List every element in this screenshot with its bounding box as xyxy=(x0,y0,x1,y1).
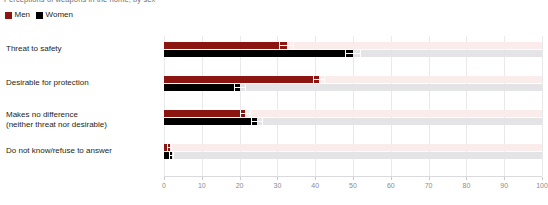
bar-women[interactable] xyxy=(164,118,257,125)
x-axis-tick xyxy=(429,177,430,180)
plot-area xyxy=(164,36,542,176)
legend-label-men: Men xyxy=(15,9,31,21)
error-bar xyxy=(313,76,324,83)
bar-men[interactable] xyxy=(164,42,287,49)
legend-swatch-men-icon xyxy=(5,12,12,19)
category-label: Desirable for protection xyxy=(6,78,152,88)
bar-women[interactable] xyxy=(164,50,353,57)
x-axis-tick-label: 90 xyxy=(500,181,508,190)
chart-title-clipped: Perceptions of weapons in the home, by s… xyxy=(4,0,404,5)
x-axis-ticks: 0102030405060708090100 xyxy=(164,177,542,191)
bar-track xyxy=(164,152,542,159)
error-bar xyxy=(240,110,251,117)
x-axis-tick-label: 60 xyxy=(387,181,395,190)
x-axis-tick xyxy=(277,177,278,180)
x-axis-tick-label: 20 xyxy=(236,181,244,190)
x-axis-tick xyxy=(164,177,165,180)
error-bar xyxy=(251,118,263,125)
x-axis-tick xyxy=(391,177,392,180)
legend-item-women[interactable]: Women xyxy=(36,9,73,21)
error-bar xyxy=(279,42,294,49)
x-axis-tick-label: 50 xyxy=(349,181,357,190)
bar-men[interactable] xyxy=(164,110,245,117)
x-axis-tick xyxy=(466,177,467,180)
chart-legend: Men Women xyxy=(5,9,73,21)
x-axis-tick-label: 80 xyxy=(462,181,470,190)
x-axis-tick xyxy=(353,177,354,180)
legend-swatch-women-icon xyxy=(36,12,43,19)
x-axis-tick xyxy=(315,177,316,180)
x-axis-tick xyxy=(240,177,241,180)
legend-label-women: Women xyxy=(46,9,73,21)
x-axis-tick-label: 0 xyxy=(162,181,166,190)
x-axis-tick-label: 70 xyxy=(425,181,433,190)
category-axis-labels: Threat to safetyDesirable for protection… xyxy=(0,36,152,172)
error-bar xyxy=(169,152,174,159)
x-axis-tick xyxy=(202,177,203,180)
x-axis-tick-label: 100 xyxy=(536,181,548,190)
bar-men[interactable] xyxy=(164,76,319,83)
error-bar xyxy=(234,84,246,91)
category-label: Threat to safety xyxy=(6,44,152,54)
category-label: Do not know/refuse to answer xyxy=(6,146,152,156)
category-label: Makes no difference (neither threat nor … xyxy=(6,110,152,130)
x-axis-tick xyxy=(542,177,543,180)
bar-women[interactable] xyxy=(164,84,240,91)
bar-track xyxy=(164,144,542,151)
error-bar xyxy=(345,50,362,57)
x-axis-tick xyxy=(504,177,505,180)
legend-item-men[interactable]: Men xyxy=(5,9,30,21)
x-axis-tick-label: 10 xyxy=(198,181,206,190)
x-axis-tick-label: 30 xyxy=(273,181,281,190)
error-bar xyxy=(167,144,172,151)
x-axis-tick-label: 40 xyxy=(311,181,319,190)
gridline xyxy=(542,36,543,176)
